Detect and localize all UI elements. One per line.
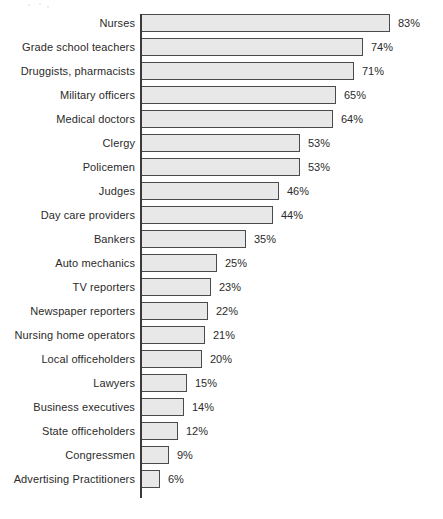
bar [142, 206, 273, 224]
category-label: Military officers [60, 86, 135, 104]
category-label: Medical doctors [56, 110, 135, 128]
bar [142, 134, 300, 152]
bar-row: Druggists, pharmacists71% [0, 62, 443, 86]
bar-value-label: 15% [195, 374, 217, 392]
category-label: Newspaper reporters [30, 302, 135, 320]
bar-value-label: 35% [254, 230, 276, 248]
horizontal-bar-chart: Nurses83%Grade school teachers74%Druggis… [0, 0, 443, 519]
category-label: Congressmen [65, 446, 135, 464]
bar [142, 470, 160, 488]
category-label: Grade school teachers [22, 38, 135, 56]
bar-row: Policemen53% [0, 158, 443, 182]
bar-value-label: 53% [308, 158, 330, 176]
bar [142, 86, 336, 104]
bar-row: Local officeholders20% [0, 350, 443, 374]
bar-value-label: 71% [362, 62, 384, 80]
bar [142, 110, 333, 128]
bar [142, 254, 217, 272]
bar-row: Grade school teachers74% [0, 38, 443, 62]
category-label: Judges [99, 182, 135, 200]
bar-value-label: 74% [371, 38, 393, 56]
bar-value-label: 44% [281, 206, 303, 224]
bar-value-label: 20% [210, 350, 232, 368]
category-label: Nurses [99, 14, 135, 32]
bar-value-label: 46% [287, 182, 309, 200]
bar-row: Bankers35% [0, 230, 443, 254]
bar-value-label: 12% [186, 422, 208, 440]
bar [142, 398, 184, 416]
category-label: Lawyers [93, 374, 135, 392]
category-label: Advertising Practitioners [14, 470, 135, 488]
bar-value-label: 23% [219, 278, 241, 296]
bar-row: Day care providers44% [0, 206, 443, 230]
bar-value-label: 21% [213, 326, 235, 344]
bar-row: Advertising Practitioners6% [0, 470, 443, 494]
bar-row: Military officers65% [0, 86, 443, 110]
bar [142, 302, 208, 320]
bar [142, 446, 169, 464]
bar-value-label: 22% [216, 302, 238, 320]
bar-row: Newspaper reporters22% [0, 302, 443, 326]
bar-row: Congressmen9% [0, 446, 443, 470]
bar-value-label: 65% [344, 86, 366, 104]
bar [142, 158, 300, 176]
bar [142, 326, 205, 344]
bar-row: Lawyers15% [0, 374, 443, 398]
category-label: Nursing home operators [15, 326, 135, 344]
bar-value-label: 53% [308, 134, 330, 152]
plot-area: Nurses83%Grade school teachers74%Druggis… [0, 0, 443, 519]
category-label: Local officeholders [41, 350, 135, 368]
bar-row: Medical doctors64% [0, 110, 443, 134]
bar-row: Nursing home operators21% [0, 326, 443, 350]
bar [142, 38, 363, 56]
category-label: Auto mechanics [55, 254, 135, 272]
bar [142, 422, 178, 440]
bar [142, 230, 246, 248]
bar [142, 182, 279, 200]
bar-value-label: 9% [177, 446, 193, 464]
bar [142, 62, 354, 80]
bar-row: State officeholders12% [0, 422, 443, 446]
bar-row: Business executives14% [0, 398, 443, 422]
category-label: Business executives [33, 398, 135, 416]
bar-value-label: 83% [398, 14, 420, 32]
category-label: State officeholders [42, 422, 135, 440]
bar-value-label: 64% [341, 110, 363, 128]
category-label: Day care providers [41, 206, 135, 224]
bar-row: Judges46% [0, 182, 443, 206]
category-label: Bankers [94, 230, 135, 248]
bar [142, 14, 390, 32]
category-label: Clergy [103, 134, 135, 152]
bar-row: Auto mechanics25% [0, 254, 443, 278]
bar [142, 374, 187, 392]
bar-value-label: 25% [225, 254, 247, 272]
category-label: Druggists, pharmacists [21, 62, 135, 80]
category-label: Policemen [83, 158, 135, 176]
bar-row: Nurses83% [0, 14, 443, 38]
bar-row: TV reporters23% [0, 278, 443, 302]
bar [142, 278, 211, 296]
category-label: TV reporters [73, 278, 135, 296]
bar [142, 350, 202, 368]
bar-row: Clergy53% [0, 134, 443, 158]
bar-value-label: 6% [168, 470, 184, 488]
bar-value-label: 14% [192, 398, 214, 416]
bar-row-list: Nurses83%Grade school teachers74%Druggis… [0, 14, 443, 494]
